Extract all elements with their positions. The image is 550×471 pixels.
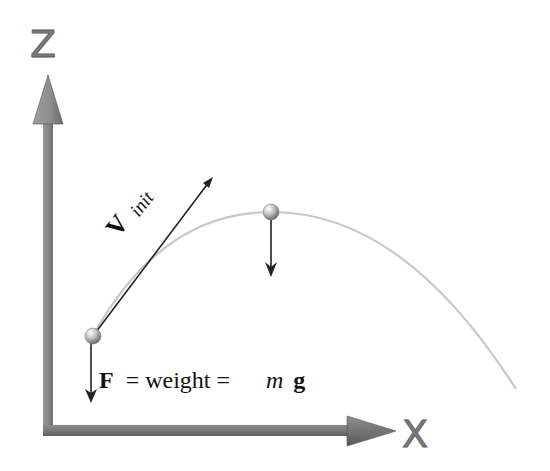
apex-weight-vector <box>265 220 277 277</box>
x-axis-label: X <box>402 412 428 456</box>
z-axis: Z <box>30 22 63 433</box>
velocity-vector: V init <box>93 177 213 336</box>
z-axis-arrowhead-icon <box>33 75 63 124</box>
x-axis-shaft <box>43 425 348 436</box>
projectile-diagram: Z X V init F = weight = m g <box>0 0 550 471</box>
launch-ball <box>85 328 101 344</box>
velocity-subscript: init <box>125 187 158 220</box>
velocity-arrowhead-icon <box>203 177 213 188</box>
x-axis: X <box>43 412 428 456</box>
velocity-symbol: V <box>100 209 135 242</box>
gravity-symbol: g <box>293 367 305 393</box>
x-axis-arrowhead-icon <box>347 416 396 446</box>
force-equation: F = weight = <box>99 367 236 393</box>
equals-weight-text: = weight = <box>120 367 236 393</box>
apex-ball <box>263 204 279 220</box>
launch-weight-vector <box>85 342 97 403</box>
z-axis-label: Z <box>30 22 56 66</box>
trajectory-curve <box>93 212 516 389</box>
mass-gravity-term: m g <box>266 367 305 393</box>
force-symbol: F <box>99 367 114 393</box>
z-axis-shaft <box>43 120 53 433</box>
mass-symbol: m <box>266 367 283 393</box>
velocity-label: V init <box>100 181 158 243</box>
